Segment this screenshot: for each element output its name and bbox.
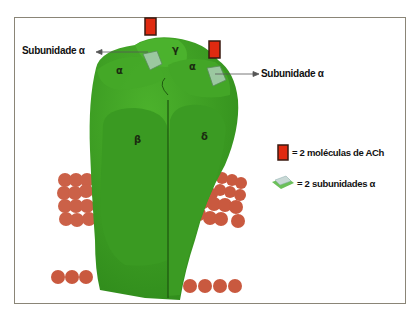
legend-ach-label: = 2 moléculas de ACh xyxy=(292,147,384,158)
membrane-left-lower xyxy=(51,270,93,284)
subunit-label-beta: β xyxy=(134,134,141,145)
subunit-label-delta: δ xyxy=(201,131,208,142)
legend-alpha-label: = 2 subunidades α xyxy=(297,178,375,189)
subunit-label-alpha-right: α xyxy=(189,61,196,72)
ach-molecule-right xyxy=(209,41,220,58)
subunit-label-alpha-left: α xyxy=(116,65,123,76)
callout-label-left: Subunidade α xyxy=(22,45,85,56)
nicotinic-receptor-protein xyxy=(90,37,239,300)
callout-label-right: Subunidade α xyxy=(261,68,324,79)
membrane-right-lower xyxy=(183,279,242,293)
ach-molecule-left xyxy=(145,18,156,35)
subunit-label-gamma: γ xyxy=(172,44,179,55)
ach-molecule-icon xyxy=(278,145,288,160)
alpha-subunit-site-icon xyxy=(272,176,294,189)
